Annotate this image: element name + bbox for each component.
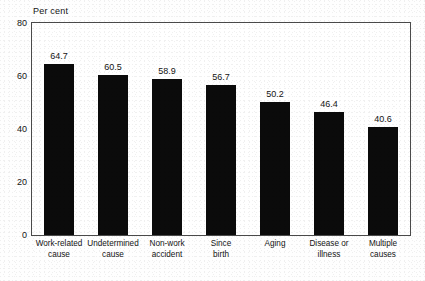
bar [152,79,182,235]
x-category-label-line: Work-related [28,239,90,250]
bar-slot: 58.9 [152,23,182,235]
bar [98,75,128,235]
x-category-label: Work-relatedcause [28,239,90,260]
y-tick-label: 0 [3,231,27,240]
x-category-label: Disease orillness [298,239,360,260]
x-category-label: Multiplecauses [352,239,414,260]
x-category-label-line: Disease or [298,239,360,250]
x-category-label-line: birth [190,250,252,261]
y-tick-label: 80 [3,19,27,28]
x-category-label-line: Multiple [352,239,414,250]
x-category-label: Non-workaccident [136,239,198,260]
x-category-label-line: Undetermined [82,239,144,250]
bar-value-label: 58.9 [142,67,192,76]
bar [260,102,290,235]
bar [44,64,74,235]
bar-value-label: 64.7 [34,52,84,61]
bar [314,112,344,235]
y-tick-label: 40 [3,125,27,134]
x-category-label-line: causes [352,250,414,261]
x-category-label-line: illness [298,250,360,261]
x-category-label-line: cause [28,250,90,261]
bar-value-label: 60.5 [88,63,138,72]
bar-slot: 50.2 [260,23,290,235]
y-axis-tick-labels: 020406080 [0,22,27,236]
bar-slot: 64.7 [44,23,74,235]
y-tick-label: 20 [3,178,27,187]
x-category-label-line: Since [190,239,252,250]
y-tick-label: 60 [3,72,27,81]
bar [368,127,398,235]
bar-value-label: 50.2 [250,90,300,99]
bar-chart: Per cent 020406080 64.760.558.956.750.24… [0,0,425,281]
bar-slot: 56.7 [206,23,236,235]
bar-slot: 60.5 [98,23,128,235]
x-category-label-line: accident [136,250,198,261]
bar-value-label: 56.7 [196,73,246,82]
bars-layer: 64.760.558.956.750.246.440.6 [32,23,410,235]
x-category-label: Aging [244,239,306,250]
bar-slot: 46.4 [314,23,344,235]
x-category-label-line: cause [82,250,144,261]
bar [206,85,236,235]
bar-slot: 40.6 [368,23,398,235]
x-axis-category-labels: Work-relatedcauseUndeterminedcauseNon-wo… [32,239,410,273]
bar-value-label: 40.6 [358,115,408,124]
x-category-label: Undeterminedcause [82,239,144,260]
y-axis-title: Per cent [33,6,68,16]
x-category-label-line: Non-work [136,239,198,250]
x-category-label-line: Aging [244,239,306,250]
x-category-label: Sincebirth [190,239,252,260]
bar-value-label: 46.4 [304,100,354,109]
